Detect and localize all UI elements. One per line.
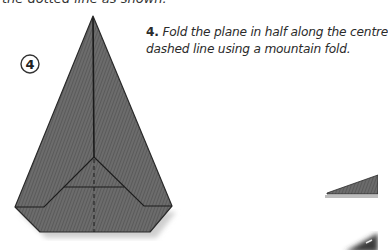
step-instruction: 4. Fold the plane in half along the cent… [146,24,378,58]
step-badge: 4 [21,55,39,73]
partial-plane-wing [327,175,378,194]
svg-text:4: 4 [25,57,34,72]
step-number: 4. [146,25,159,39]
step-instruction-line-1: 4. Fold the plane in half along the cent… [146,24,378,41]
center-crease-line [93,18,94,157]
step-instruction-line-2: dashed line using a mountain fold. [146,41,378,58]
blurred-plane-corner [345,233,378,250]
partial-plane-shadow [325,195,378,198]
